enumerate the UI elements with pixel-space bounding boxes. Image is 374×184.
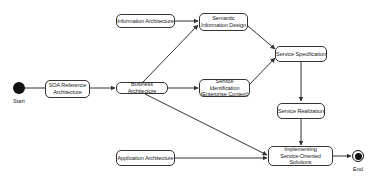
edge-identification-specification — [250, 58, 275, 84]
node-business-architecture[interactable]: Business Architecture — [116, 82, 168, 94]
edge-semantic-specification — [248, 26, 275, 49]
end-node-inner-icon — [355, 153, 362, 160]
edge-business-implementing — [145, 94, 267, 155]
node-soa-reference-architecture[interactable]: SOA Reference Architecture — [45, 80, 90, 98]
start-node-icon — [13, 82, 25, 94]
start-label: Start — [4, 98, 34, 104]
node-application-architecture[interactable]: Application Architecture — [116, 150, 175, 166]
node-semantic-information-design[interactable]: Semantic Information Design — [199, 13, 248, 31]
node-service-realization[interactable]: Service Realization — [277, 103, 325, 119]
edge-business-semantic — [143, 25, 198, 82]
node-service-specification[interactable]: Service Specification — [275, 46, 327, 62]
activity-diagram: Start SOA Reference Architecture Busines… — [0, 0, 374, 184]
node-implementing-service-oriented-solutions[interactable]: Implementing Service-Oriented Solutions — [268, 146, 333, 166]
node-service-identification[interactable]: Service Identification (Enterprise Conte… — [199, 79, 250, 97]
end-label: End — [343, 166, 373, 172]
node-information-architecture[interactable]: Information Architecture — [116, 14, 175, 28]
end-node-icon — [352, 150, 364, 162]
